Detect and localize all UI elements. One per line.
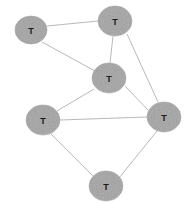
nodes-layer: TTTTTT (15, 6, 181, 201)
graph-edge (60, 117, 147, 120)
graph-canvas: TTTTTT (0, 0, 190, 204)
graph-edge (57, 89, 94, 111)
graph-node-shape[interactable] (89, 171, 123, 201)
graph-node[interactable]: T (92, 63, 126, 93)
graph-edge (110, 36, 113, 63)
graph-node[interactable]: T (147, 102, 181, 132)
graph-edge (47, 21, 98, 26)
edges-layer (42, 21, 158, 178)
graph-node[interactable]: T (89, 171, 123, 201)
graph-node[interactable]: T (26, 105, 60, 135)
graph-node-shape[interactable] (98, 6, 132, 36)
graph-node[interactable]: T (98, 6, 132, 36)
graph-edge (51, 134, 94, 177)
graph-edge (127, 34, 158, 102)
graph-diagram: TTTTTT (0, 0, 190, 204)
graph-edge (42, 42, 95, 71)
graph-node-shape[interactable] (147, 102, 181, 132)
graph-edge (119, 131, 157, 178)
graph-edge (125, 86, 148, 110)
graph-node-shape[interactable] (26, 105, 60, 135)
graph-node-shape[interactable] (15, 16, 47, 44)
graph-node-shape[interactable] (92, 63, 126, 93)
graph-node[interactable]: T (15, 16, 47, 44)
